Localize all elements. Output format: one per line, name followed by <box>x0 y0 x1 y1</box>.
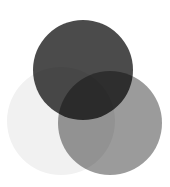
venn-circle-top <box>33 20 133 120</box>
venn-diagram-figure <box>0 0 170 187</box>
venn-diagram-canvas <box>0 0 170 187</box>
